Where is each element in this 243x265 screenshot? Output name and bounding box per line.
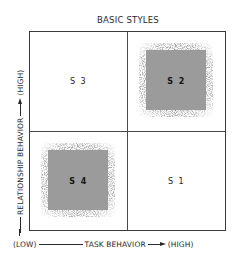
quadrant-s3: S 3 — [30, 32, 127, 131]
x-axis-label: TASK BEHAVIOR — [85, 240, 146, 249]
x-axis-high: (HIGH) — [168, 240, 194, 249]
x-axis-arrow-line — [148, 244, 160, 245]
y-axis-arrow-line — [20, 104, 21, 116]
quadrant-label: S 3 — [70, 77, 87, 86]
x-axis-line — [39, 244, 83, 245]
y-axis-label: RELATIONSHIP BEHAVIOR — [16, 118, 25, 215]
arrow-right-icon — [160, 242, 166, 246]
styles-grid: S 3 S 2 S 4 S 1 — [29, 31, 226, 231]
quadrant-label: S 4 — [69, 177, 88, 186]
y-axis: RELATIONSHIP BEHAVIOR (HIGH) — [14, 30, 26, 233]
x-axis: (LOW) TASK BEHAVIOR (HIGH) — [13, 238, 233, 250]
quadrant-label: S 2 — [167, 77, 186, 86]
y-axis-line — [20, 217, 21, 233]
quadrant-s2: S 2 — [128, 32, 225, 131]
quadrant-label: S 1 — [168, 177, 185, 186]
y-axis-high: (HIGH) — [16, 70, 25, 96]
quadrant-s4: S 4 — [30, 132, 127, 231]
diagram-title: BASIC STYLES — [0, 15, 243, 25]
quadrant-s1: S 1 — [128, 132, 225, 231]
x-axis-low: (LOW) — [13, 240, 37, 249]
